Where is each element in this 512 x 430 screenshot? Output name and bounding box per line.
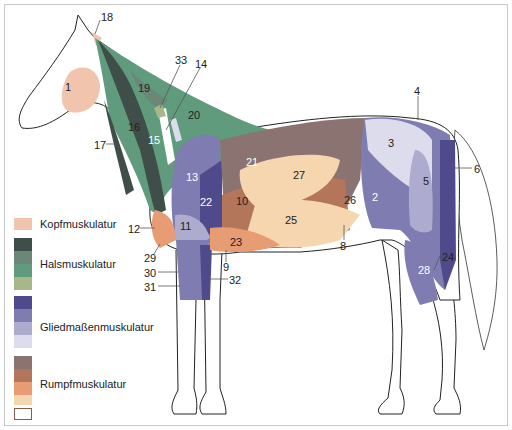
label-24: 24 [442, 252, 454, 263]
swatch-hals-3 [14, 264, 32, 277]
label-26: 26 [344, 195, 356, 206]
swatch-glied-1 [14, 296, 32, 309]
swatch-rumpf-1 [14, 356, 32, 369]
label-9: 9 [223, 262, 229, 273]
label-12: 12 [128, 224, 140, 235]
label-22: 22 [200, 197, 212, 208]
leader-lines [0, 0, 512, 430]
swatch-glied-3 [14, 322, 32, 335]
label-15: 15 [148, 135, 160, 146]
legend-label-kopfmuskulatur: Kopfmuskulatur [40, 218, 116, 230]
swatch-hals-4 [14, 277, 32, 290]
label-8: 8 [340, 241, 346, 252]
swatch-hals-2 [14, 251, 32, 264]
legend-label-gliedmassenmuskulatur: Gliedmaßenmuskulatur [40, 321, 154, 333]
label-3: 3 [388, 138, 394, 149]
swatch-rumpf-2 [14, 369, 32, 382]
label-23: 23 [230, 237, 242, 248]
swatch-rumpf-5 [14, 408, 32, 420]
label-4: 4 [414, 86, 420, 97]
label-29: 29 [144, 253, 156, 264]
label-18: 18 [101, 12, 113, 23]
swatch-glied-4 [14, 335, 32, 348]
label-32: 32 [229, 275, 241, 286]
label-21: 21 [246, 157, 258, 168]
label-30: 30 [144, 268, 156, 279]
label-17: 17 [94, 140, 106, 151]
legend-label-halsmuskulatur: Halsmuskulatur [40, 258, 116, 270]
label-31: 31 [144, 282, 156, 293]
label-33: 33 [175, 55, 187, 66]
swatch-glied-2 [14, 309, 32, 322]
label-5: 5 [423, 176, 429, 187]
label-28: 28 [418, 265, 430, 276]
swatch-hals-1 [14, 238, 32, 251]
label-27: 27 [293, 170, 305, 181]
legend-label-rumpfmuskulatur: Rumpfmuskulatur [40, 378, 126, 390]
swatch-kopf [14, 218, 32, 230]
label-20: 20 [188, 110, 200, 121]
label-13: 13 [186, 172, 198, 183]
label-6: 6 [474, 164, 480, 175]
label-11: 11 [180, 221, 191, 232]
label-19: 19 [138, 83, 150, 94]
label-25: 25 [285, 215, 297, 226]
label-10: 10 [236, 196, 248, 207]
swatch-rumpf-4 [14, 395, 32, 405]
swatch-rumpf-3 [14, 382, 32, 395]
label-16: 16 [128, 122, 140, 133]
label-1: 1 [65, 82, 71, 93]
label-14: 14 [195, 59, 207, 70]
label-2: 2 [372, 192, 378, 203]
